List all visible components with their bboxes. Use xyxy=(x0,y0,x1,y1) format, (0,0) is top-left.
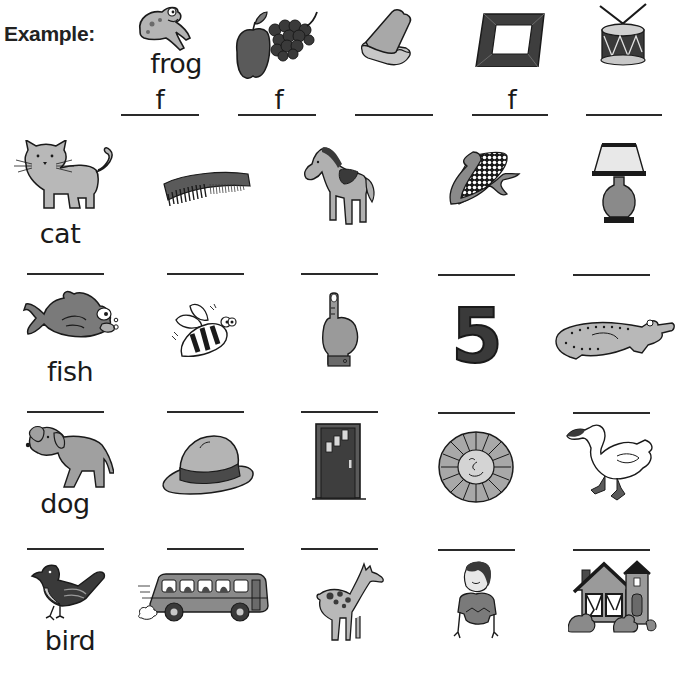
cat-icon xyxy=(14,140,122,212)
alligator-picture xyxy=(552,313,676,361)
answer-line[interactable] xyxy=(238,114,316,116)
horse-icon xyxy=(302,142,382,232)
dog-picture xyxy=(24,423,114,489)
sun-picture xyxy=(437,430,515,504)
picture-frame-picture xyxy=(474,12,546,67)
duck-picture xyxy=(565,420,655,502)
answer-line[interactable] xyxy=(586,114,662,116)
bus-picture xyxy=(136,572,270,624)
number-five-icon: 5 xyxy=(452,300,502,368)
frog-icon xyxy=(132,2,198,54)
apple-grapes-icon xyxy=(233,8,323,80)
sun-icon xyxy=(437,430,515,504)
example-word: cat xyxy=(5,220,115,247)
picture-frame-icon xyxy=(474,12,546,67)
frog-picture xyxy=(132,2,198,54)
door-icon xyxy=(312,422,366,502)
example-label: Example: xyxy=(4,22,95,46)
answer-line[interactable] xyxy=(438,549,515,551)
corn-icon xyxy=(447,150,527,210)
number-five-picture: 5 xyxy=(452,300,502,368)
bird-icon xyxy=(30,562,106,624)
answer-letter: f xyxy=(502,87,522,113)
cell-frog: frog xyxy=(120,0,240,130)
answer-line[interactable] xyxy=(573,549,650,551)
answer-line[interactable] xyxy=(301,548,378,550)
answer-line[interactable] xyxy=(438,274,515,276)
fish-icon xyxy=(22,290,120,346)
answer-line[interactable] xyxy=(438,412,515,414)
sandwich-picture xyxy=(356,8,418,68)
answer-letter: f xyxy=(150,87,170,113)
answer-line[interactable] xyxy=(167,548,244,550)
sandwich-icon xyxy=(356,8,418,68)
bee-picture xyxy=(170,300,238,360)
answer-line[interactable] xyxy=(472,114,548,116)
drum-icon xyxy=(596,2,650,68)
horse-picture xyxy=(302,142,382,232)
cat-picture xyxy=(14,140,122,212)
boy-icon xyxy=(452,560,502,646)
giraffe-icon xyxy=(310,560,390,646)
answer-line[interactable] xyxy=(27,548,104,550)
house-icon xyxy=(568,560,658,636)
example-word: frog xyxy=(116,50,236,77)
answer-line[interactable] xyxy=(121,114,199,116)
bus-icon xyxy=(136,572,270,624)
door-picture xyxy=(312,422,366,502)
comb-icon xyxy=(162,166,252,208)
example-word: fish xyxy=(10,358,130,385)
boy-picture xyxy=(452,560,502,646)
hat-icon xyxy=(160,430,256,496)
apple-grapes-picture xyxy=(233,8,323,80)
drum-picture xyxy=(596,2,650,68)
lamp-picture xyxy=(590,143,648,225)
answer-line[interactable] xyxy=(27,273,104,275)
hat-picture xyxy=(160,430,256,496)
example-word: bird xyxy=(10,627,130,654)
bee-icon xyxy=(170,300,238,360)
pointing-finger-icon xyxy=(320,292,364,368)
answer-line[interactable] xyxy=(301,411,378,413)
finger-picture xyxy=(320,292,364,368)
giraffe-picture xyxy=(310,560,390,646)
answer-line[interactable] xyxy=(167,273,244,275)
answer-letter: f xyxy=(269,87,289,113)
example-word: dog xyxy=(5,490,125,517)
comb-picture xyxy=(162,166,252,208)
svg-text:5: 5 xyxy=(452,300,502,368)
answer-line[interactable] xyxy=(573,274,650,276)
lamp-icon xyxy=(590,143,648,225)
answer-line[interactable] xyxy=(301,273,378,275)
answer-line[interactable] xyxy=(355,114,433,116)
house-picture xyxy=(568,560,658,636)
duck-icon xyxy=(565,420,655,502)
dog-icon xyxy=(24,423,114,489)
bird-picture xyxy=(30,562,106,624)
alligator-icon xyxy=(552,313,676,361)
fish-picture xyxy=(22,290,120,346)
answer-line[interactable] xyxy=(573,412,650,414)
answer-line[interactable] xyxy=(167,411,244,413)
answer-line[interactable] xyxy=(27,411,104,413)
corn-picture xyxy=(447,150,527,210)
